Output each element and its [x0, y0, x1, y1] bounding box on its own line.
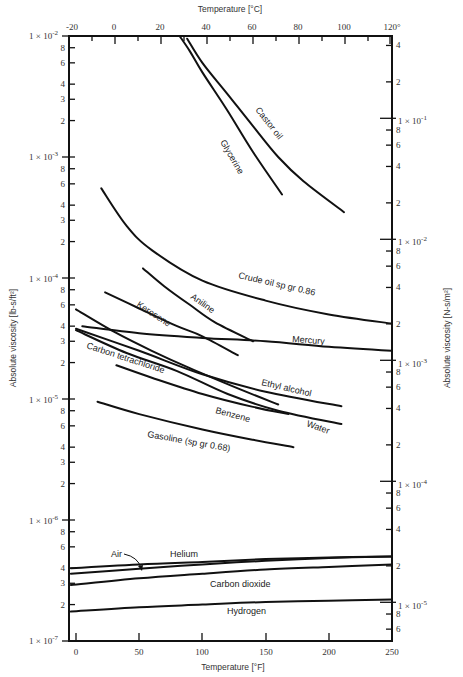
svg-text:1 × 10-5: 1 × 10-5 [398, 599, 427, 611]
svg-text:2: 2 [61, 116, 66, 126]
svg-text:8: 8 [61, 527, 66, 537]
svg-text:8: 8 [396, 125, 401, 135]
svg-text:4: 4 [61, 442, 66, 452]
top-ticks [92, 36, 390, 44]
svg-text:100: 100 [195, 647, 209, 657]
svg-text:200: 200 [322, 647, 336, 657]
curve-labels: Castor oil Glycerine Crude oil sp gr 0.8… [85, 105, 331, 616]
svg-text:1 × 10-6: 1 × 10-6 [29, 514, 58, 526]
bottom-axis-title: Temperature [°F] [201, 662, 264, 672]
svg-text:20: 20 [156, 22, 166, 32]
svg-text:2: 2 [396, 198, 401, 208]
svg-text:150: 150 [259, 647, 273, 657]
svg-text:-20: -20 [66, 22, 78, 32]
left-tick-labels: 1 × 10-2 1 × 10-3 1 × 10-4 1 × 10-5 1 × … [29, 29, 58, 646]
svg-text:4: 4 [61, 79, 66, 89]
svg-text:6: 6 [61, 300, 66, 310]
left-minor-tick-labels: 2346823468234682346823468 [61, 43, 66, 610]
svg-text:40: 40 [202, 22, 212, 32]
label-air: Air [111, 549, 122, 559]
svg-text:2: 2 [61, 237, 66, 247]
right-tick-labels: 1 × 10-1 1 × 10-2 1 × 10-3 1 × 10-4 1 × … [398, 114, 427, 611]
svg-text:2: 2 [396, 319, 401, 329]
right-ticks [380, 45, 396, 629]
right-minor-tick-labels: 24246824682468246868 [396, 40, 401, 634]
svg-text:1 × 10-2: 1 × 10-2 [398, 235, 427, 247]
svg-text:4: 4 [396, 161, 401, 171]
label-kerosene: Kerosene [135, 299, 173, 328]
svg-text:2: 2 [396, 440, 401, 450]
svg-text:2: 2 [61, 479, 66, 489]
svg-text:4: 4 [61, 321, 66, 331]
right-axis-title: Absolute viscosity [N-s/m²] [442, 288, 452, 388]
svg-text:1 × 10-7: 1 × 10-7 [29, 634, 58, 646]
svg-text:1 × 10-4: 1 × 10-4 [398, 478, 427, 490]
svg-text:3: 3 [61, 578, 66, 588]
svg-text:6: 6 [61, 542, 66, 552]
svg-text:3: 3 [61, 457, 66, 467]
svg-text:8: 8 [61, 406, 66, 416]
svg-text:3: 3 [61, 336, 66, 346]
top-axis-title: Temperature [°C] [198, 4, 262, 14]
svg-text:120°: 120° [383, 22, 401, 32]
svg-text:6: 6 [61, 179, 66, 189]
svg-text:4: 4 [396, 403, 401, 413]
svg-text:60: 60 [248, 22, 258, 32]
svg-text:8: 8 [61, 285, 66, 295]
svg-text:1 × 10-2: 1 × 10-2 [29, 29, 58, 41]
bottom-tick-labels: 0 50 100 150 200 250 [74, 647, 400, 657]
svg-text:4: 4 [396, 524, 401, 534]
svg-text:6: 6 [396, 140, 401, 150]
svg-text:1 × 10-3: 1 × 10-3 [29, 150, 58, 162]
svg-text:4: 4 [61, 563, 66, 573]
svg-text:50: 50 [135, 647, 145, 657]
svg-text:1 × 10-4: 1 × 10-4 [29, 272, 58, 284]
curves [71, 36, 392, 612]
svg-text:1 × 10-1: 1 × 10-1 [398, 114, 427, 126]
svg-text:4: 4 [396, 40, 401, 50]
svg-text:6: 6 [396, 261, 401, 271]
svg-text:0: 0 [74, 647, 79, 657]
svg-text:6: 6 [61, 421, 66, 431]
svg-text:4: 4 [396, 282, 401, 292]
label-crude-oil: Crude oil sp gr 0.86 [238, 270, 317, 297]
svg-text:6: 6 [396, 503, 401, 513]
svg-text:6: 6 [61, 58, 66, 68]
svg-text:1 × 10-3: 1 × 10-3 [398, 357, 427, 369]
svg-text:3: 3 [61, 94, 66, 104]
svg-text:6: 6 [396, 382, 401, 392]
svg-text:1 × 10-5: 1 × 10-5 [29, 393, 58, 405]
svg-text:2: 2 [61, 358, 66, 368]
label-castor-oil: Castor oil [253, 105, 284, 141]
svg-text:8: 8 [61, 43, 66, 53]
svg-text:8: 8 [396, 246, 401, 256]
label-glycerine: Glycerine [218, 138, 246, 176]
top-tick-labels: -20 0 20 40 60 80 100 120° [66, 22, 401, 32]
viscosity-chart: Temperature [°C] -20 0 20 40 60 80 100 1… [0, 0, 463, 677]
curve-carbon-tetrachloride [76, 309, 278, 404]
label-helium: Helium [170, 549, 198, 559]
svg-text:100: 100 [337, 22, 351, 32]
svg-text:80: 80 [294, 22, 304, 32]
svg-text:2: 2 [396, 561, 401, 571]
svg-text:3: 3 [61, 215, 66, 225]
svg-text:250: 250 [385, 647, 399, 657]
label-carbon-dioxide: Carbon dioxide [210, 579, 271, 589]
svg-text:0: 0 [112, 22, 117, 32]
label-hydrogen: Hydrogen [227, 606, 266, 616]
label-aniline: Aniline [189, 291, 217, 315]
bottom-ticks [76, 633, 329, 641]
svg-text:4: 4 [61, 200, 66, 210]
svg-text:2: 2 [61, 600, 66, 610]
svg-text:6: 6 [396, 624, 401, 634]
svg-text:8: 8 [61, 164, 66, 174]
svg-text:2: 2 [396, 77, 401, 87]
label-benzene: Benzene [214, 405, 251, 424]
left-axis-title: Absolute viscosity [lb-s/ft²] [8, 289, 18, 387]
